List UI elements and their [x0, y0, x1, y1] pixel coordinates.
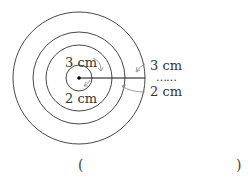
label-inner-bottom: 2 cm — [65, 92, 97, 105]
answer-blank[interactable] — [88, 156, 233, 174]
label-inner-top: 3 cm — [65, 56, 97, 69]
answer-close-paren: ) — [236, 158, 241, 172]
label-right-bottom: 2 cm — [150, 85, 182, 98]
center-point — [77, 76, 81, 80]
label-right-dots: …… — [156, 71, 176, 84]
answer-open-paren: ( — [78, 158, 83, 172]
concentric-circles-figure — [0, 0, 248, 182]
